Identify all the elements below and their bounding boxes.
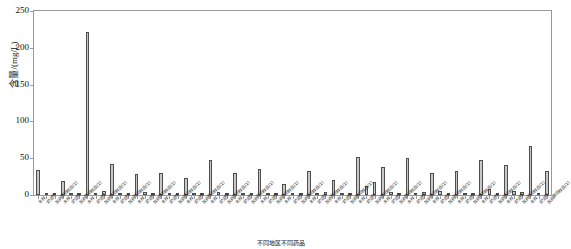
x-tick-label: 加药前后样品(1) [546, 180, 571, 205]
x-axis-title: 不同地区不同药品 [0, 238, 561, 247]
